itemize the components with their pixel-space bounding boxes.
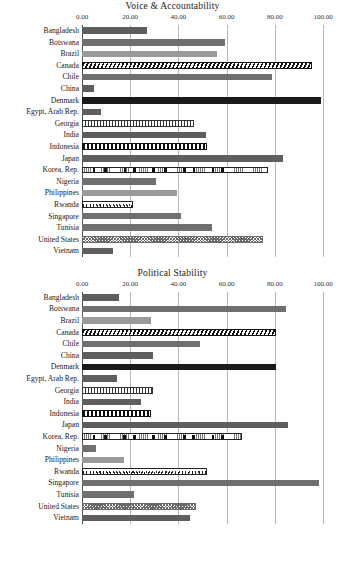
- x-tick-label: 20.00: [122, 280, 138, 288]
- bar: [82, 213, 181, 220]
- bar-rows-voice: BangladeshBotswanaBrazilCanadaChileChina…: [82, 25, 323, 257]
- category-label: India: [0, 396, 79, 408]
- bar-row: Vietnam: [82, 245, 323, 257]
- x-tick-label: 40.00: [171, 280, 187, 288]
- bar-marker: [104, 435, 107, 439]
- x-tick-label: 80.00: [267, 280, 283, 288]
- bar: [82, 480, 319, 487]
- plot-area-voice: BangladeshBotswanaBrazilCanadaChileChina…: [82, 25, 323, 257]
- chart-title-political: Political Stability: [0, 267, 345, 280]
- bar-row: Tunisia: [82, 489, 323, 501]
- bar-row: United States: [82, 501, 323, 513]
- bar-row: Georgia: [82, 385, 323, 397]
- bar-marker: [164, 168, 167, 172]
- bar-row: Rwanda: [82, 199, 323, 211]
- category-label: Botswana: [0, 303, 79, 315]
- x-tick-label: 0.00: [76, 280, 88, 288]
- bar-row: Indonesia: [82, 141, 323, 153]
- bar: [82, 422, 288, 429]
- bar-row: Canada: [82, 60, 323, 72]
- category-label: Tunisia: [0, 489, 79, 501]
- category-label: Chile: [0, 71, 79, 83]
- bar: [82, 132, 206, 139]
- category-label: Japan: [0, 153, 79, 165]
- bar-row: China: [82, 83, 323, 95]
- category-label: Rwanda: [0, 466, 79, 478]
- category-label: Indonesia: [0, 408, 79, 420]
- category-label: Nigeria: [0, 176, 79, 188]
- category-label: United States: [0, 234, 79, 246]
- category-label: Canada: [0, 327, 79, 339]
- x-axis-ticks-voice: 0.0020.0040.0060.0080.00100.00: [82, 13, 323, 25]
- category-label: Bangladesh: [0, 25, 79, 37]
- bar: [82, 85, 94, 92]
- bar: [82, 51, 217, 58]
- bar: [82, 120, 194, 127]
- bar-row: Botswana: [82, 37, 323, 49]
- bar-rows-political: BangladeshBotswanaBrazilCanadaChileChina…: [82, 292, 323, 524]
- bar-marker: [123, 435, 126, 439]
- bar: [82, 503, 196, 510]
- bar: [82, 109, 101, 116]
- bar-marker: [152, 435, 155, 439]
- category-label: Georgia: [0, 118, 79, 130]
- bar: [82, 62, 312, 69]
- bar-marker: [183, 168, 186, 172]
- category-label: Denmark: [0, 95, 79, 107]
- bar-row: Singapore: [82, 477, 323, 489]
- bar-row: United States: [82, 234, 323, 246]
- bar-row: China: [82, 350, 323, 362]
- bar-row: Brazil: [82, 315, 323, 327]
- bar: [82, 236, 263, 243]
- category-label: Tunisia: [0, 222, 79, 234]
- category-label: Brazil: [0, 48, 79, 60]
- bar: [82, 515, 190, 522]
- bar-row: Denmark: [82, 95, 323, 107]
- bar-marker: [133, 435, 136, 439]
- category-label: Philippines: [0, 454, 79, 466]
- chart-title-voice: Voice & Accountability: [0, 0, 345, 13]
- bar: [82, 468, 207, 475]
- bar: [82, 317, 151, 324]
- bar-marker: [133, 168, 136, 172]
- bar: [82, 143, 207, 150]
- bar: [82, 457, 124, 464]
- category-label: China: [0, 83, 79, 95]
- x-tick-label: 20.00: [122, 13, 138, 21]
- x-tick-label: 100.00: [313, 280, 332, 288]
- category-label: Singapore: [0, 477, 79, 489]
- bar-row: Nigeria: [82, 176, 323, 188]
- category-label: Rwanda: [0, 199, 79, 211]
- category-label: Chile: [0, 338, 79, 350]
- bar-row: Brazil: [82, 48, 323, 60]
- bar: [82, 224, 212, 231]
- bar-row: Chile: [82, 338, 323, 350]
- category-label: China: [0, 350, 79, 362]
- bar-marker: [221, 435, 224, 439]
- bar-marker: [183, 435, 186, 439]
- bar-marker: [212, 168, 215, 172]
- category-label: Brazil: [0, 315, 79, 327]
- bar: [82, 167, 268, 174]
- category-label: Nigeria: [0, 443, 79, 455]
- bar: [82, 27, 147, 34]
- bar-marker: [192, 435, 195, 439]
- bar-marker: [104, 168, 107, 172]
- category-label: Botswana: [0, 37, 79, 49]
- bar-row: Bangladesh: [82, 292, 323, 304]
- bar-marker: [152, 168, 155, 172]
- bar-row: Chile: [82, 71, 323, 83]
- bar: [82, 399, 141, 406]
- bar-row: Egypt, Arab Rep.: [82, 373, 323, 385]
- gridline: [323, 25, 324, 257]
- x-tick-label: 60.00: [219, 13, 235, 21]
- bar-row: Korea, Rep.: [82, 164, 323, 176]
- plot-area-political: BangladeshBotswanaBrazilCanadaChileChina…: [82, 292, 323, 524]
- x-tick-label: 60.00: [219, 280, 235, 288]
- bar: [82, 387, 153, 394]
- category-label: Georgia: [0, 385, 79, 397]
- bar: [82, 39, 225, 46]
- x-tick-label: 40.00: [171, 13, 187, 21]
- category-label: Bangladesh: [0, 292, 79, 304]
- bar: [82, 74, 272, 81]
